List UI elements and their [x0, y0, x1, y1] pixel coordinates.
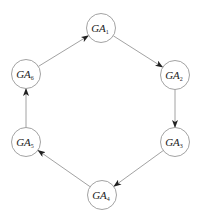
edge-arrow-ga1-to-ga2 [113, 36, 163, 67]
node-ga4: GA4 [88, 181, 117, 210]
edge-arrow-ga6-to-ga1 [38, 36, 88, 67]
edge-arrow-ga4-to-ga5 [38, 150, 90, 186]
edges-group [26, 36, 175, 187]
nodes-group: GA1GA2GA3GA4GA5GA6 [12, 14, 190, 210]
cycle-diagram: GA1GA2GA3GA4GA5GA6 [0, 0, 202, 217]
edge-arrow-ga3-to-ga4 [114, 151, 164, 187]
node-ga2: GA2 [161, 61, 190, 90]
node-ga5: GA5 [12, 128, 41, 157]
node-ga6: GA6 [12, 60, 41, 89]
node-ga3: GA3 [161, 128, 190, 157]
node-ga1: GA1 [87, 14, 116, 43]
